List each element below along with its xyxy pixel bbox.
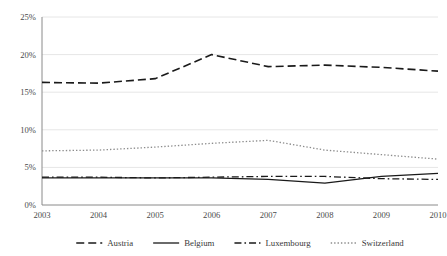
x-tick-label-2008: 2008 (316, 210, 333, 220)
legend-item-luxembourg[interactable]: Luxembourg (234, 238, 311, 248)
legend-label-belgium: Belgium (184, 238, 214, 248)
legend-item-belgium[interactable]: Belgium (153, 238, 214, 248)
series-line-austria (42, 55, 438, 84)
x-tick-label-2004: 2004 (90, 210, 108, 220)
legend-item-austria[interactable]: Austria (76, 238, 133, 248)
line-chart: 0%5%10%15%20%25%200320042005200620072008… (0, 0, 447, 256)
y-tick-label-10%: 10% (20, 125, 36, 135)
y-tick-label-0%: 0% (25, 200, 36, 210)
x-tick-label-2010: 2010 (429, 210, 446, 220)
x-axis-tick-labels: 20032004200520062007200820092010 (33, 210, 446, 220)
legend-label-switzerland: Switzerland (362, 238, 405, 248)
x-tick-label-2006: 2006 (203, 210, 221, 220)
y-tick-label-15%: 15% (20, 87, 36, 97)
gridlines (42, 17, 438, 167)
x-tick-label-2009: 2009 (373, 210, 390, 220)
x-tick-label-2003: 2003 (33, 210, 50, 220)
x-tick-label-2005: 2005 (147, 210, 164, 220)
y-tick-label-20%: 20% (20, 50, 36, 60)
y-axis-tick-labels: 0%5%10%15%20%25% (20, 12, 36, 210)
y-tick-label-25%: 25% (20, 12, 36, 22)
legend-label-luxembourg: Luxembourg (265, 238, 311, 248)
series-group (42, 55, 438, 184)
series-line-switzerland (42, 140, 438, 159)
x-tick-label-2007: 2007 (260, 210, 278, 220)
legend-label-austria: Austria (107, 238, 133, 248)
y-tick-label-5%: 5% (25, 162, 36, 172)
chart-canvas: 0%5%10%15%20%25%200320042005200620072008… (0, 0, 447, 256)
legend-item-switzerland[interactable]: Switzerland (331, 238, 405, 248)
legend: AustriaBelgiumLuxembourgSwitzerland (76, 238, 404, 248)
